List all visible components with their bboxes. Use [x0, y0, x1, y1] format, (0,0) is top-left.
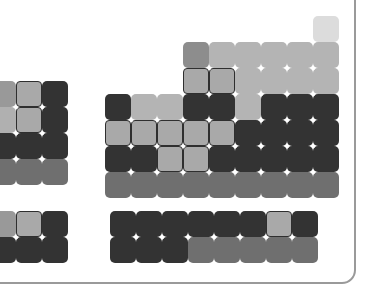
element-cell[interactable]: [105, 120, 131, 146]
element-cell[interactable]: [209, 94, 235, 120]
element-cell[interactable]: [313, 94, 339, 120]
element-cell[interactable]: [42, 237, 68, 263]
element-cell[interactable]: [42, 133, 68, 159]
element-cell[interactable]: [131, 146, 157, 172]
element-cell[interactable]: [42, 211, 68, 237]
element-cell[interactable]: [261, 42, 287, 68]
element-cell[interactable]: [157, 172, 183, 198]
element-cell[interactable]: [287, 68, 313, 94]
element-cell[interactable]: [287, 120, 313, 146]
element-cell[interactable]: [313, 16, 339, 42]
grid-junction-dot: [156, 145, 159, 148]
element-cell[interactable]: [131, 172, 157, 198]
element-cell[interactable]: [209, 42, 235, 68]
element-cell[interactable]: [266, 211, 292, 237]
element-cell[interactable]: [214, 237, 240, 263]
element-cell[interactable]: [209, 172, 235, 198]
grid-junction-dot: [312, 67, 315, 70]
element-cell[interactable]: [209, 68, 235, 94]
element-cell[interactable]: [313, 172, 339, 198]
grid-junction-dot: [234, 67, 237, 70]
grid-junction-dot: [182, 119, 185, 122]
element-cell[interactable]: [235, 42, 261, 68]
element-cell[interactable]: [16, 81, 42, 107]
element-cell[interactable]: [105, 94, 131, 120]
grid-junction-dot: [260, 93, 263, 96]
element-cell[interactable]: [240, 237, 266, 263]
element-cell[interactable]: [261, 68, 287, 94]
element-cell[interactable]: [287, 146, 313, 172]
grid-junction-dot: [234, 145, 237, 148]
element-cell[interactable]: [0, 211, 16, 237]
element-cell[interactable]: [292, 211, 318, 237]
element-cell[interactable]: [110, 237, 136, 263]
element-cell[interactable]: [183, 94, 209, 120]
element-cell[interactable]: [266, 237, 292, 263]
element-cell[interactable]: [183, 146, 209, 172]
element-cell[interactable]: [42, 81, 68, 107]
element-cell[interactable]: [287, 42, 313, 68]
element-cell[interactable]: [235, 68, 261, 94]
element-cell[interactable]: [183, 172, 209, 198]
element-cell[interactable]: [261, 94, 287, 120]
element-cell[interactable]: [0, 237, 16, 263]
element-cell[interactable]: [105, 146, 131, 172]
element-cell[interactable]: [105, 172, 131, 198]
element-cell[interactable]: [16, 159, 42, 185]
element-cell[interactable]: [16, 211, 42, 237]
grid-junction-dot: [239, 236, 242, 239]
element-cell[interactable]: [136, 237, 162, 263]
grid-junction-dot: [213, 236, 216, 239]
element-cell[interactable]: [292, 237, 318, 263]
element-cell[interactable]: [261, 146, 287, 172]
element-cell[interactable]: [214, 211, 240, 237]
element-cell[interactable]: [188, 211, 214, 237]
element-cell[interactable]: [183, 42, 209, 68]
element-cell[interactable]: [183, 120, 209, 146]
grid-junction-dot: [156, 119, 159, 122]
element-cell[interactable]: [235, 94, 261, 120]
element-cell[interactable]: [110, 211, 136, 237]
element-cell[interactable]: [0, 159, 16, 185]
grid-junction-dot: [312, 93, 315, 96]
element-cell[interactable]: [183, 68, 209, 94]
element-cell[interactable]: [287, 172, 313, 198]
element-cell[interactable]: [0, 81, 16, 107]
element-cell[interactable]: [42, 107, 68, 133]
element-cell[interactable]: [235, 120, 261, 146]
element-cell[interactable]: [157, 94, 183, 120]
element-cell[interactable]: [42, 159, 68, 185]
element-cell[interactable]: [313, 146, 339, 172]
element-cell[interactable]: [240, 211, 266, 237]
grid-junction-dot: [15, 236, 18, 239]
element-cell[interactable]: [261, 172, 287, 198]
element-cell[interactable]: [0, 107, 16, 133]
element-cell[interactable]: [235, 146, 261, 172]
element-cell[interactable]: [162, 211, 188, 237]
element-cell[interactable]: [157, 146, 183, 172]
element-cell[interactable]: [16, 107, 42, 133]
element-cell[interactable]: [131, 120, 157, 146]
element-cell[interactable]: [209, 146, 235, 172]
element-cell[interactable]: [188, 237, 214, 263]
grid-junction-dot: [41, 132, 44, 135]
element-cell[interactable]: [261, 120, 287, 146]
element-cell[interactable]: [287, 94, 313, 120]
element-cell[interactable]: [209, 120, 235, 146]
grid-junction-dot: [260, 119, 263, 122]
element-cell[interactable]: [157, 120, 183, 146]
element-cell[interactable]: [313, 68, 339, 94]
grid-junction-dot: [234, 93, 237, 96]
element-cell[interactable]: [131, 94, 157, 120]
element-cell[interactable]: [136, 211, 162, 237]
element-cell[interactable]: [235, 172, 261, 198]
grid-junction-dot: [208, 67, 211, 70]
element-cell[interactable]: [16, 133, 42, 159]
element-cell[interactable]: [0, 133, 16, 159]
grid-junction-dot: [286, 93, 289, 96]
element-cell[interactable]: [313, 42, 339, 68]
grid-junction-dot: [130, 119, 133, 122]
element-cell[interactable]: [162, 237, 188, 263]
element-cell[interactable]: [16, 237, 42, 263]
element-cell[interactable]: [313, 120, 339, 146]
